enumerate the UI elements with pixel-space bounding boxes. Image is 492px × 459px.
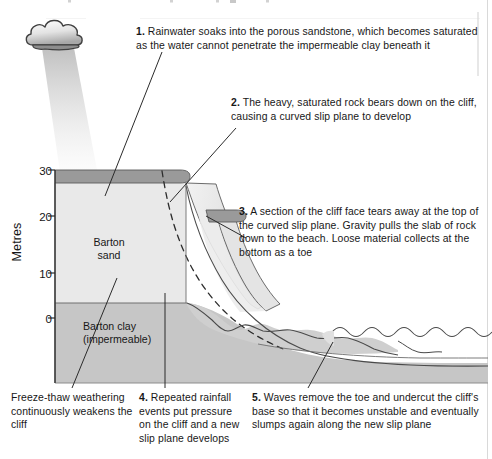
barton-sand-label-line2: sand (98, 249, 121, 261)
toe-outline-secondary (398, 341, 442, 353)
annotation-note-4-text: Repeated rainfall events put pressure on… (139, 392, 239, 444)
annotation-note-5: 5. Waves remove the toe and undercut the… (252, 391, 488, 432)
annotation-note-1-number: 1. (136, 26, 145, 37)
annotation-note-2: 2. The heavy, saturated rock bears down … (231, 96, 487, 123)
annotation-note-1-text: Rainwater soaks into the porous sandston… (136, 26, 478, 51)
y-axis-title: Metres (10, 212, 24, 272)
cliff-top-soil-cap (55, 170, 190, 183)
barton-clay-label: Barton clay (impermeable) (83, 320, 187, 345)
cut-off-header-remnant (46, 0, 480, 19)
annotation-note-3-text: A section of the cliff face tears away a… (239, 206, 478, 258)
diagram-stage: Metres 30 20 10 0 Barton sand Barton cla… (0, 0, 492, 459)
annotation-note-1: 1. Rainwater soaks into the porous sands… (136, 25, 480, 52)
sea-waves (332, 328, 492, 337)
annotation-note-freeze-thaw: Freeze-thaw weathering continuously weak… (11, 391, 133, 432)
annotation-note-3-number: 3. (239, 206, 248, 217)
annotation-note-4-number: 4. (139, 392, 148, 403)
rain-cloud-icon (26, 20, 82, 49)
annotation-note-2-number: 2. (231, 97, 240, 108)
annotation-note-5-number: 5. (252, 392, 261, 403)
annotation-note-4: 4. Repeated rainfall events put pressure… (139, 391, 243, 445)
y-axis-tick-20: 20 (26, 211, 52, 223)
y-axis-tick-10: 10 (26, 268, 52, 280)
barton-clay-label-line1: Barton clay (83, 320, 136, 332)
annotation-note-freeze-thaw-text: Freeze-thaw weathering continuously weak… (11, 392, 133, 430)
annotation-note-3: 3. A section of the cliff face tears awa… (239, 205, 487, 259)
y-axis-tick-30: 30 (26, 165, 52, 177)
y-axis-tick-0: 0 (26, 313, 52, 325)
annotation-note-2-text: The heavy, saturated rock bears down on … (231, 97, 477, 122)
annotation-note-5-text: Waves remove the toe and undercut the cl… (252, 392, 479, 430)
barton-sand-label-line1: Barton (93, 236, 124, 248)
barton-sand-label: Barton sand (73, 236, 145, 261)
barton-clay-label-line2: (impermeable) (83, 333, 151, 345)
